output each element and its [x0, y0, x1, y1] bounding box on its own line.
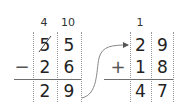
addend1-ones: 9 [152, 35, 173, 55]
carry-tens: 1 [134, 17, 146, 29]
plus-sign: + [110, 57, 126, 77]
column-guide [173, 32, 174, 102]
addend2-tens: 1 [130, 57, 151, 77]
sum-rule [104, 79, 173, 80]
addend2-ones: 8 [152, 57, 173, 77]
sum-tens: 4 [130, 81, 151, 101]
addend1-tens: 2 [130, 35, 151, 55]
sum-ones: 7 [152, 81, 173, 101]
